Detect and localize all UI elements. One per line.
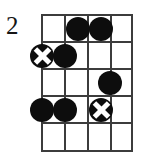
fret-line-3 xyxy=(41,95,133,97)
marker-fret4-string1 xyxy=(30,98,54,122)
chord-diagram: 2 xyxy=(0,0,143,164)
marker-fret1-string4 xyxy=(89,17,113,41)
fret-line-2 xyxy=(41,68,133,70)
marker-fret4-string4 xyxy=(89,98,113,122)
fret-line-4 xyxy=(41,122,133,124)
marker-fret4-string2 xyxy=(53,98,77,122)
string-line-2 xyxy=(64,15,66,151)
string-line-5 xyxy=(131,15,133,151)
marker-fret2-string2 xyxy=(53,44,77,68)
fret-line-0 xyxy=(41,14,133,16)
fretboard-grid xyxy=(0,0,143,164)
marker-fret1-string3 xyxy=(66,17,90,41)
fret-line-1 xyxy=(41,41,133,43)
marker-fret3-string4 xyxy=(98,71,122,95)
string-line-1 xyxy=(41,15,43,151)
fret-line-5 xyxy=(41,150,133,152)
marker-fret2-string1 xyxy=(30,44,54,68)
